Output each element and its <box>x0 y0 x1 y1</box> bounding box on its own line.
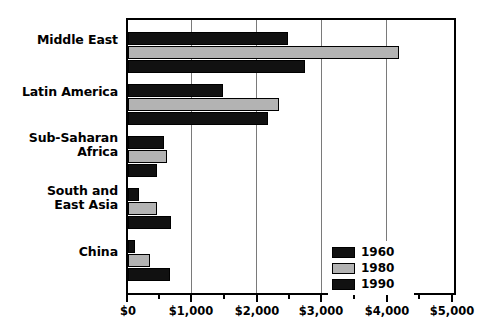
x-tick-5000 <box>451 295 453 302</box>
x-tick-minor-4500 <box>418 295 420 299</box>
plot-area: 1960 1980 1990 <box>126 18 456 295</box>
bar-middle-east-1960 <box>128 32 288 45</box>
category-axis: Middle East Latin America Sub-Saharan Af… <box>0 18 122 295</box>
x-axis: $0 $1,000 $2,000 $3,000 $4,000 $5,000 <box>126 295 456 331</box>
legend-label-1990: 1990 <box>361 278 394 290</box>
bar-china-1990 <box>128 268 170 281</box>
x-tick-minor-3500 <box>353 295 355 299</box>
legend-label-1980: 1980 <box>361 262 394 274</box>
legend-swatch-1980 <box>332 263 355 274</box>
legend-item-1980: 1980 <box>332 260 410 276</box>
x-tick-label-5000: $5,000 <box>430 304 474 318</box>
x-tick-4000 <box>386 295 388 302</box>
bar-group-sub-saharan-africa <box>128 136 454 178</box>
category-label-middle-east: Middle East <box>37 33 118 47</box>
bar-group-middle-east <box>128 32 454 74</box>
chart-legend: 1960 1980 1990 <box>328 241 414 295</box>
legend-item-1990: 1990 <box>332 276 410 292</box>
bar-sub-saharan-africa-1990 <box>128 164 157 177</box>
legend-item-1960: 1960 <box>332 244 410 260</box>
x-tick-label-0: $0 <box>120 304 136 318</box>
x-tick-label-2000: $2,000 <box>235 304 279 318</box>
category-label-latin-america: Latin America <box>22 85 118 99</box>
bar-china-1980 <box>128 254 150 267</box>
bar-latin-america-1960 <box>128 84 223 97</box>
legend-label-1960: 1960 <box>361 246 394 258</box>
bar-middle-east-1990 <box>128 60 305 73</box>
legend-swatch-1960 <box>332 247 355 258</box>
bar-south-and-east-asia-1980 <box>128 202 157 215</box>
bar-china-1960 <box>128 240 135 253</box>
x-tick-label-1000: $1,000 <box>169 304 213 318</box>
category-label-china: China <box>79 245 118 259</box>
x-tick-1000 <box>190 295 192 302</box>
x-tick-2000 <box>256 295 258 302</box>
x-tick-3000 <box>320 295 322 302</box>
bar-south-and-east-asia-1990 <box>128 216 171 229</box>
bar-sub-saharan-africa-1980 <box>128 150 167 163</box>
horizontal-bar-chart: Middle East Latin America Sub-Saharan Af… <box>0 0 487 332</box>
legend-swatch-1990 <box>332 279 355 290</box>
bar-middle-east-1980 <box>128 46 399 59</box>
bar-sub-saharan-africa-1960 <box>128 136 164 149</box>
bar-south-and-east-asia-1960 <box>128 188 139 201</box>
x-tick-label-3000: $3,000 <box>299 304 343 318</box>
x-tick-label-4000: $4,000 <box>365 304 409 318</box>
x-tick-minor-1500 <box>223 295 225 299</box>
x-tick-minor-500 <box>158 295 160 299</box>
bar-group-south-and-east-asia <box>128 188 454 230</box>
bar-group-latin-america <box>128 84 454 126</box>
bar-latin-america-1980 <box>128 98 279 111</box>
category-label-south-and-east-asia: South and East Asia <box>47 184 118 211</box>
plot-inner: 1960 1980 1990 <box>128 20 454 293</box>
x-tick-minor-2500 <box>288 295 290 299</box>
x-tick-0 <box>126 295 128 302</box>
category-label-sub-saharan-africa: Sub-Saharan Africa <box>29 131 118 158</box>
bar-latin-america-1990 <box>128 112 268 125</box>
